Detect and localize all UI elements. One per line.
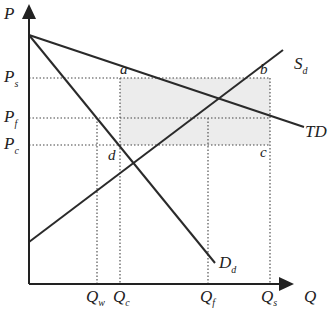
point-label-b: b [260, 61, 268, 77]
quantity-label-qs: Qs [261, 287, 277, 308]
y-axis-label: P [3, 4, 14, 23]
curve-label-dd: Dd [218, 253, 237, 275]
supply-demand-diagram: P Q Ps Pf Pc Qw Qc Qf Qs TD Sd Dd a b c … [0, 0, 333, 314]
price-label-pc: Pc [3, 134, 19, 156]
y-axis-arrow-icon [22, 4, 36, 19]
point-label-c: c [260, 144, 267, 160]
quantity-label-qf: Qf [200, 287, 216, 308]
curve-label-sd: Sd [294, 54, 309, 76]
x-axis-label: Q [304, 287, 316, 306]
point-label-d: d [108, 147, 116, 163]
point-label-a: a [120, 61, 128, 77]
price-label-ps: Ps [3, 67, 18, 89]
quantity-label-qc: Qc [113, 287, 130, 308]
curve-label-td: TD [305, 122, 327, 141]
quantity-label-qw: Qw [86, 287, 105, 308]
shaded-region [120, 78, 270, 145]
price-label-pf: Pf [3, 107, 18, 129]
x-axis-arrow-icon [279, 277, 294, 291]
